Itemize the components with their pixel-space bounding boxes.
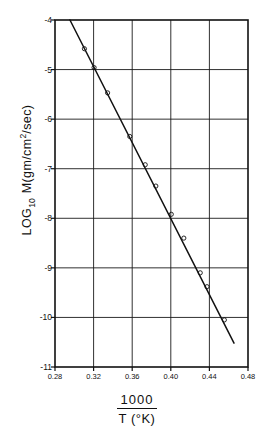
- x-tick-label: 0.32: [86, 373, 101, 381]
- arrhenius-plot-figure: LOG10M(gm/cm2/sec) -4-5-6-7-8-9-10-11 0.…: [0, 0, 274, 442]
- x-tick-label: 0.40: [163, 373, 178, 381]
- x-axis-label-fraction: 1000 T (°K): [117, 392, 158, 426]
- x-axis-label-numerator: 1000: [117, 392, 158, 409]
- x-tick-label: 0.28: [48, 373, 63, 381]
- x-tick-label: 0.44: [202, 373, 217, 381]
- x-axis-label-denominator: T (°K): [119, 409, 156, 426]
- x-tick-label: 0.36: [125, 373, 140, 381]
- x-axis-label: 1000 T (°K): [0, 392, 274, 426]
- x-axis-tick-labels: 0.280.320.360.400.440.48: [0, 0, 274, 442]
- x-tick-label: 0.48: [241, 373, 256, 381]
